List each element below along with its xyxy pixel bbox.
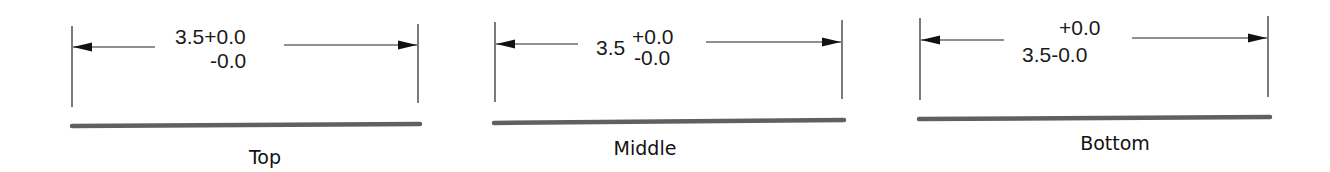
arrowhead-left-icon [496,40,515,49]
reference-bar [494,120,844,123]
arrowhead-right-icon [398,41,417,50]
arrowhead-right-icon [1248,34,1267,43]
dimension-text-line2: -0.0 [210,49,246,72]
reference-bar [919,117,1270,119]
tolerance-alignment-diagram: 3.5+0.0 -0.0 Top 3.5 +0.0 -0.0 Middle +0… [0,0,1330,172]
dimension-text-line1: 3.5+0.0 [175,25,246,48]
nominal-value: 3.5 [596,36,625,59]
arrowhead-left-icon [921,36,940,45]
panel-bottom: +0.0 3.5-0.0 Bottom [919,16,1270,154]
panel-label: Top [248,146,281,168]
upper-tolerance: +0.0 [632,25,673,48]
panel-label: Middle [614,137,677,159]
reference-bar [72,124,420,126]
dimension-text-line2: 3.5-0.0 [1022,43,1087,66]
panel-label: Bottom [1080,132,1150,154]
lower-tolerance: -0.0 [634,46,670,69]
dimension-text-line1: +0.0 [1059,16,1100,39]
arrowhead-right-icon [822,38,841,47]
panel-middle: 3.5 +0.0 -0.0 Middle [494,20,844,159]
panel-top: 3.5+0.0 -0.0 Top [72,24,420,168]
arrowhead-left-icon [73,43,92,52]
